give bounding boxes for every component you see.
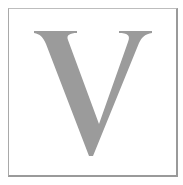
serif-letter-v-glyph: V: [0, 0, 183, 185]
letter-v-shape: [34, 31, 152, 156]
